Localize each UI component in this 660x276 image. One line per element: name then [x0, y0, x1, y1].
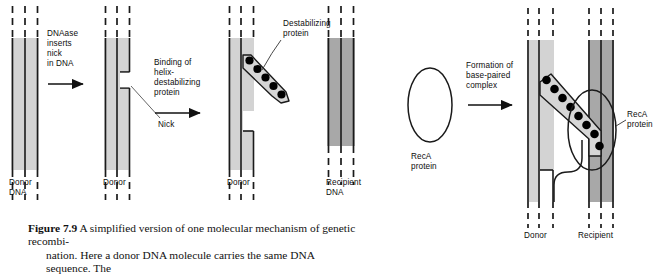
arrow3-label-line2: base-paired [466, 71, 510, 81]
panel-5-base-paired-complex [527, 8, 626, 228]
recipient-dna-label-line2: DNA [326, 188, 344, 198]
arrow2-label-line3: destabilizing [154, 78, 200, 88]
panel-3-donor-with-protein [228, 6, 289, 200]
reca-protein-label-line2: protein [411, 162, 437, 172]
dna-dashes-top-3 [230, 6, 254, 38]
panel-4-recipient-dna [327, 6, 355, 185]
displaced-strand-gap [243, 111, 255, 131]
reca-protein-label-line1: RecA [411, 152, 431, 162]
complex-dashes-top [528, 8, 613, 40]
arrow1-label-line1: DNAase [47, 29, 78, 39]
arrow1-label-line2: inserts [47, 39, 72, 49]
donor-dna-label-line1: Donor [9, 178, 32, 188]
nick-gap [120, 73, 131, 88]
destabilizing-protein-label-line1: Destabilizing [283, 19, 331, 29]
arrow3-label-line1: Formation of [466, 61, 513, 71]
recipient-dashes-top [329, 6, 354, 38]
figure-caption-text-line2: nation. Here a donor DNA molecule carrie… [28, 249, 358, 276]
figure-caption-text-line1: A simplified version of one molecular me… [28, 222, 355, 247]
complex-reca-leader [616, 120, 626, 126]
recipient-dna-label-line1: Recipient [326, 178, 361, 188]
final-donor-label: Donor [524, 231, 547, 241]
reca-protein-ellipse [408, 68, 452, 142]
complex-crossover-connector [554, 140, 582, 202]
complex-reca-label-line1: RecA [627, 110, 647, 120]
arrow3-label-line3: complex [466, 81, 497, 91]
donor-label-2: Donor [103, 178, 126, 188]
figure-caption: Figure 7.9 A simplified version of one m… [28, 222, 358, 276]
donor-dna-label-line2: DNA [9, 188, 27, 198]
dna-dashes-top-1 [13, 6, 38, 38]
complex-donor-body-left [527, 40, 540, 202]
arrow1-label-line3: nick [47, 49, 62, 59]
nick-label: Nick [158, 120, 174, 130]
panel-1-donor-dna [11, 6, 39, 200]
arrow1-label-line4: in DNA [47, 59, 74, 69]
complex-reca-label-line2: protein [627, 120, 653, 130]
figure-caption-prefix: Figure 7.9 [28, 222, 77, 234]
destabilizing-protein-leader [262, 40, 281, 70]
dna-dashes-top-2 [106, 6, 130, 38]
final-recipient-label: Recipient [578, 231, 613, 241]
arrow2-label-line2: helix- [154, 68, 174, 78]
destabilizing-protein-label-line2: protein [283, 29, 309, 39]
complex-dashes-bottom [528, 202, 613, 228]
donor-label-3: Donor [227, 178, 250, 188]
arrow2-label-line4: protein [154, 88, 180, 98]
complex-donor-notch [540, 170, 554, 202]
panel-2-nicked-dna [104, 6, 160, 200]
arrow2-label-line1: Binding of [154, 58, 191, 68]
